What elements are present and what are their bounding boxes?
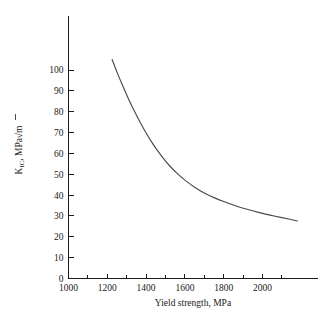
y-tick-label-50: 50: [54, 170, 64, 180]
x-tick-label-1800: 1800: [214, 283, 233, 293]
y-tick-label-30: 30: [54, 211, 64, 221]
y-tick-label-10: 10: [54, 253, 64, 263]
chart-figure: 0102030405060708090100 10001200140016001…: [0, 0, 326, 325]
x-tick-label-1400: 1400: [137, 283, 156, 293]
y-tick-label-40: 40: [54, 191, 64, 201]
y-tick-label-70: 70: [54, 128, 64, 138]
x-tick-label-1600: 1600: [175, 283, 194, 293]
y-tick-label-80: 80: [54, 107, 64, 117]
x-tick-label-1000: 1000: [59, 283, 78, 293]
data-curve-line: [112, 60, 297, 221]
x-tick-label-2000: 2000: [253, 283, 272, 293]
svg-text:KIC, MPa√m: KIC, MPa√m: [14, 125, 25, 175]
x-tick-label-1200: 1200: [98, 283, 117, 293]
x-tick-group: 100012001400160018002000: [59, 274, 282, 293]
y-tick-label-60: 60: [54, 149, 64, 159]
y-axis-units: , MPa: [14, 137, 24, 160]
y-tick-label-20: 20: [54, 232, 64, 242]
y-tick-group: 0102030405060708090100: [49, 65, 73, 284]
chart-plot-area: 0102030405060708090100 10001200140016001…: [0, 0, 326, 325]
x-axis-title: Yield strength, MPa: [155, 298, 232, 308]
y-tick-label-90: 90: [54, 86, 64, 96]
y-tick-label-100: 100: [49, 65, 64, 75]
y-axis-title: KIC, MPa√m: [14, 114, 25, 175]
y-axis-radicand: m: [14, 125, 24, 133]
